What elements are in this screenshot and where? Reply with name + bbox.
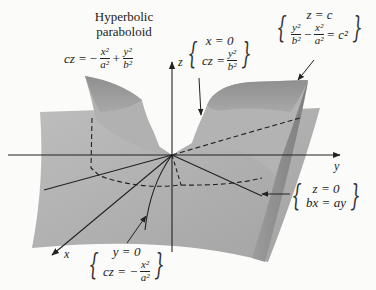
left-brace: { [88, 249, 99, 279]
left-brace: { [291, 180, 302, 210]
trace-y0-annotation: { y = 0 cz = −x²a² } [84, 245, 169, 283]
right-brace: } [352, 12, 363, 42]
figure-title: Hyperbolic paraboloid [79, 10, 169, 38]
right-brace: } [154, 249, 165, 279]
left-brace: { [187, 38, 198, 68]
trace-x0-annotation: { x = 0 cz =y²b² } [183, 34, 256, 72]
surface-equation: cz = − x²a² + y²b² [64, 46, 133, 70]
z-axis-label: z [178, 56, 183, 68]
title-line-2: paraboloid [79, 25, 169, 38]
right-brace: } [241, 38, 252, 68]
y-axis-label: y [334, 160, 339, 172]
title-line-1: Hyperbolic [79, 10, 169, 23]
x-axis-label: x [64, 248, 69, 260]
right-brace: } [350, 180, 361, 210]
left-brace: { [276, 12, 287, 42]
trace-z0-annotation: { z = 0 bx = ay } [287, 180, 365, 210]
arrow-zc [298, 60, 314, 80]
trace-zc-annotation: { z = c y²b² − x²a² = c² } [272, 8, 367, 46]
